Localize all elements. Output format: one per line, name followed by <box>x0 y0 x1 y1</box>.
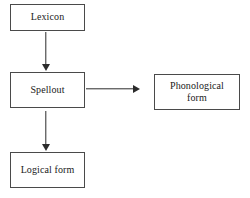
node-spellout: Spellout <box>10 72 85 108</box>
diagram-canvas: Lexicon Spellout Phonologicalform Logica… <box>0 0 250 198</box>
arrow-head <box>42 144 50 151</box>
arrow-shaft <box>45 32 46 65</box>
node-phonological-form-label: Phonologicalform <box>168 80 226 105</box>
arrow-spellout-to-logical-icon <box>39 111 53 151</box>
node-logical-form-label: Logical form <box>19 164 77 177</box>
node-logical-form: Logical form <box>10 152 85 188</box>
node-lexicon-label: Lexicon <box>29 11 66 24</box>
node-phonological-form-label-line1: Phonological <box>170 80 224 91</box>
node-phonological-form: Phonologicalform <box>154 74 240 110</box>
arrow-spellout-to-phonological-icon <box>86 82 140 96</box>
arrow-shaft <box>86 88 134 89</box>
arrow-lexicon-to-spellout-icon <box>39 32 53 71</box>
node-phonological-form-label-line2: form <box>187 92 207 103</box>
arrow-head <box>133 85 140 93</box>
node-spellout-label: Spellout <box>28 84 66 97</box>
node-lexicon: Lexicon <box>10 4 85 31</box>
arrow-shaft <box>45 111 46 145</box>
arrow-head <box>42 64 50 71</box>
